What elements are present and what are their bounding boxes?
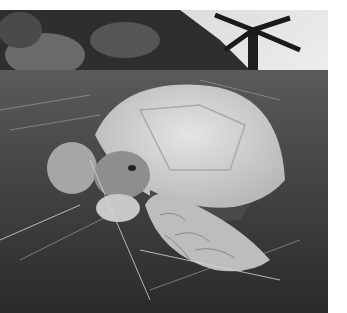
tortoise-photo <box>0 10 328 313</box>
tortoise-left-leg <box>47 142 97 194</box>
photo-illustration <box>0 10 328 313</box>
tortoise-head <box>94 151 150 199</box>
